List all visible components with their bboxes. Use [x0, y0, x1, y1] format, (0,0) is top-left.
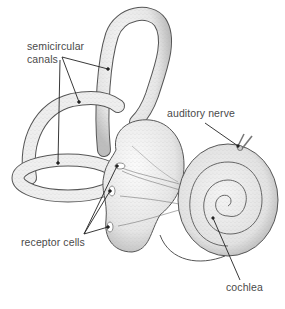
label-canals: canals	[27, 53, 58, 66]
inner-ear-diagram: semicircular canals auditory nerve recep…	[0, 0, 285, 309]
label-cochlea: cochlea	[226, 281, 263, 294]
label-semicircular: semicircular	[27, 40, 84, 53]
leader-line-auditory-nerve	[205, 123, 239, 147]
label-receptor-cells: receptor cells	[21, 236, 85, 249]
vestibule	[103, 120, 186, 252]
label-auditory-nerve: auditory nerve	[167, 107, 235, 120]
